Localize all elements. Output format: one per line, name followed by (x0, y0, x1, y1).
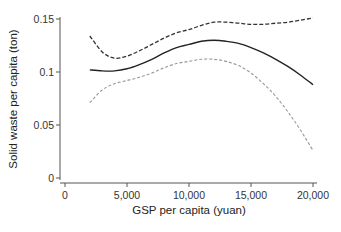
x-tick-label: 20,000 (297, 189, 329, 201)
y-tick-label: 0.1 (39, 66, 54, 78)
plot-series (90, 18, 313, 151)
fitted-line (90, 40, 313, 84)
x-tick-label: 5,000 (114, 189, 140, 201)
x-tick-label: 10,000 (173, 189, 205, 201)
y-tick-label: 0.15 (34, 13, 55, 25)
x-axis: 05,00010,00015,00020,000 (60, 183, 329, 201)
y-tick-label: 0 (48, 172, 54, 184)
upper-confidence-bound-line (90, 18, 313, 58)
x-axis-title: GSP per capita (yuan) (132, 204, 246, 216)
y-tick-label: 0.05 (34, 119, 55, 131)
y-axis: 00.050.10.15 (34, 13, 60, 184)
y-axis-title: Solid waste per capita (ton) (7, 29, 19, 169)
lower-confidence-bound-line (90, 59, 313, 150)
line-chart: 00.050.10.15 05,00010,00015,00020,000 So… (0, 0, 341, 232)
x-tick-label: 15,000 (235, 189, 267, 201)
x-tick-label: 0 (62, 189, 68, 201)
